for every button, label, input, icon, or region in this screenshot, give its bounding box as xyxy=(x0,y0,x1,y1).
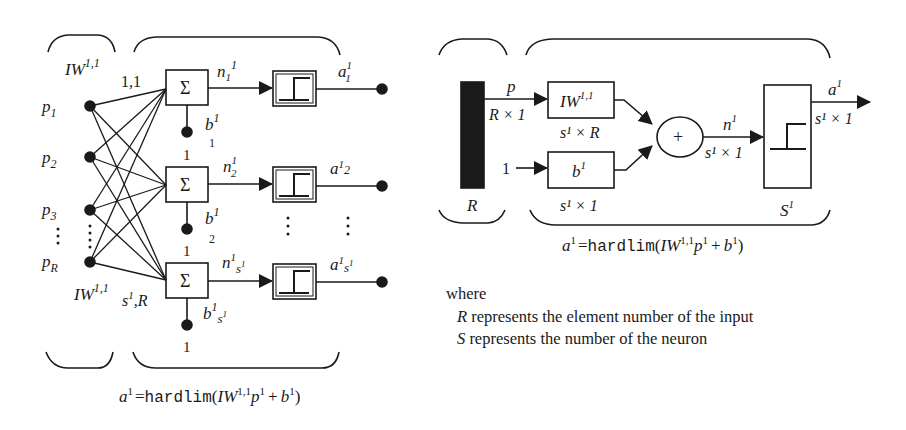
weight-dim: s¹ × R xyxy=(560,124,600,141)
last-weight-index: s1,R xyxy=(122,289,148,309)
right-diagram xyxy=(439,39,870,225)
input-bar-label: R xyxy=(466,196,478,215)
sigma-symbol-3: Σ xyxy=(180,271,190,291)
perceptron-diagram: p1 p2 p3 pR IW1,1 IW1,1 1,1 s1,R Σ Σ Σ 1… xyxy=(0,0,906,430)
right-formula: a1=hardlim(IW1,1p1+b1) xyxy=(562,234,743,256)
output-label: a1 xyxy=(828,77,842,99)
bias-box-label: b1 xyxy=(572,159,586,181)
bias-dim: s¹ × 1 xyxy=(560,197,598,214)
bias-label-3: b1s1 xyxy=(203,300,227,326)
bias-input-2: 1 xyxy=(183,243,191,259)
weight-box-label: IW1,1 xyxy=(559,89,594,111)
net-label-2: n12 xyxy=(223,154,237,179)
hardlim-box-1 xyxy=(273,71,316,106)
weight-connections xyxy=(90,89,166,280)
plus-symbol: + xyxy=(673,127,683,147)
input-vector-bar xyxy=(461,82,484,188)
legend-where: where xyxy=(446,284,486,303)
bias-node-2 xyxy=(182,224,192,234)
bias-input-1: 1 xyxy=(183,147,191,163)
layer-brace-top-right xyxy=(526,39,830,58)
bias-to-sum-arrow xyxy=(614,146,652,170)
net-label-3: n1s1 xyxy=(222,251,246,276)
weight-to-sum-arrow xyxy=(614,100,652,124)
output-label-3: a1s1 xyxy=(330,254,354,275)
output-node-1 xyxy=(377,84,387,94)
sigma-symbol-2: Σ xyxy=(180,175,190,195)
input-brace-bottom xyxy=(46,352,113,368)
input-label-p: p xyxy=(506,77,516,96)
bias-node-3 xyxy=(182,320,192,330)
input-brace-top xyxy=(48,35,115,52)
first-weight-index: 1,1 xyxy=(121,73,141,90)
left-formula: a1=hardlim(IW1,1p1+b1) xyxy=(119,385,300,407)
layer-brace-top xyxy=(134,37,340,55)
bias-node-1 xyxy=(182,127,192,137)
output-label-1: a11 xyxy=(338,59,352,84)
input-label-pR: pR xyxy=(41,252,59,275)
bias-sub-2: 2 xyxy=(209,232,215,246)
legend-item-R: R represents the element number of the i… xyxy=(456,307,754,326)
bias-input-3: 1 xyxy=(183,339,191,355)
hardlim-box-2 xyxy=(273,167,316,202)
input-dim: R × 1 xyxy=(488,106,526,123)
net-label-1: n11 xyxy=(217,58,237,83)
output-node-3 xyxy=(377,277,387,287)
bias-input: 1 xyxy=(502,160,510,177)
weight-label-bottom: IW1,1 xyxy=(73,281,109,304)
input-label-p2: p2 xyxy=(41,148,57,171)
left-diagram xyxy=(46,35,387,368)
legend-item-S: S represents the number of the neuron xyxy=(457,329,707,348)
neuron-ellipsis xyxy=(287,217,350,236)
output-label-2: a12 xyxy=(330,158,350,178)
net-dim: s¹ × 1 xyxy=(705,144,743,161)
input-label-p1: p1 xyxy=(41,97,57,120)
output-node-2 xyxy=(377,181,387,191)
bias-sub-1: 1 xyxy=(209,136,215,150)
bias-label-1: b1 xyxy=(205,111,220,134)
weight-label-top: IW1,1 xyxy=(64,56,100,79)
net-label: n1 xyxy=(723,112,737,134)
sigma-symbol-1: Σ xyxy=(180,78,190,98)
hardlim-box-3 xyxy=(273,264,316,299)
input-label-p3: p3 xyxy=(41,200,57,223)
layer-brace-bottom xyxy=(133,352,339,368)
input-ellipsis xyxy=(57,225,92,249)
output-dim: s¹ × 1 xyxy=(815,110,853,127)
layer-label: S1 xyxy=(780,198,794,220)
hardlim-step-icon xyxy=(770,124,806,149)
bias-label-2: b1 xyxy=(205,205,220,228)
input-brace-top-right xyxy=(439,39,507,55)
